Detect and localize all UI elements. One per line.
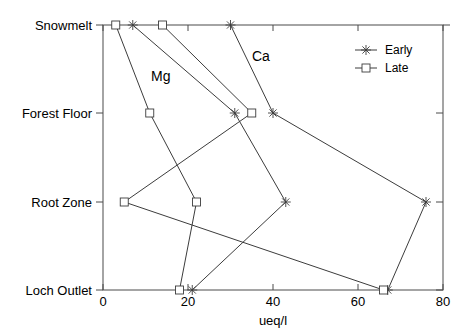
- annotation-mg: Mg: [151, 68, 170, 84]
- y-category-label-forest-floor: Forest Floor: [0, 106, 92, 121]
- y-category-label-root-zone: Root Zone: [0, 195, 92, 210]
- annotation-ca: Ca: [252, 48, 270, 64]
- legend-markers: [355, 45, 377, 72]
- chart-container: 0 20 40 60 80 ueq/l Snowmelt Forest Floo…: [0, 0, 470, 334]
- x-tick-label-3: 60: [338, 294, 378, 309]
- y-category-label-loch-outlet: Loch Outlet: [0, 283, 92, 298]
- legend-label-late: Late: [385, 61, 408, 75]
- x-tick-label-1: 20: [168, 294, 208, 309]
- x-tick-label-4: 80: [423, 294, 463, 309]
- x-axis-title: ueq/l: [213, 313, 333, 328]
- x-tick-label-2: 40: [253, 294, 293, 309]
- legend-label-early: Early: [385, 43, 412, 57]
- y-category-label-snowmelt: Snowmelt: [0, 18, 92, 33]
